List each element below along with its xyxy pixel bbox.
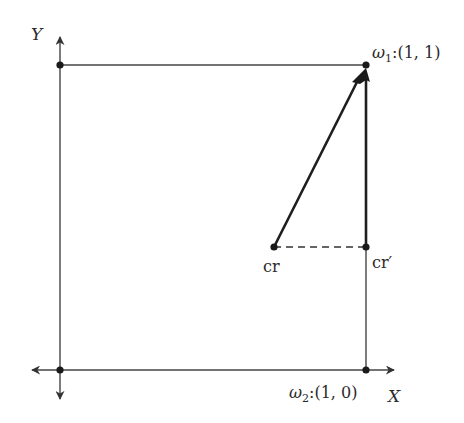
cosine-similarity-diagram: Y X ω1:(1, 1) ω2:(1, 0) cr cr′ (0, 0, 464, 423)
y-axis-label: Y (31, 24, 44, 44)
point-cr (270, 243, 277, 250)
point-cr-prime (362, 243, 369, 250)
omega1-subscript: 1 (385, 52, 392, 65)
x-axis-label: X (386, 386, 401, 406)
point-origin (56, 366, 63, 373)
cr-label: cr (263, 257, 280, 276)
omega2-symbol: ω (289, 383, 302, 402)
omega2-coords: :(1, 0) (309, 383, 357, 402)
omega1-label: ω1:(1, 1) (372, 43, 440, 65)
omega1-symbol: ω (372, 43, 385, 62)
omega2-subscript: 2 (302, 392, 309, 405)
point-omega2 (362, 366, 369, 373)
point-top-left (56, 61, 63, 68)
point-omega1 (362, 61, 369, 68)
vector-cr-to-omega1 (274, 82, 357, 247)
omega1-coords: :(1, 1) (392, 43, 440, 62)
cr-prime-label: cr′ (372, 253, 393, 272)
omega2-label: ω2:(1, 0) (289, 383, 357, 405)
